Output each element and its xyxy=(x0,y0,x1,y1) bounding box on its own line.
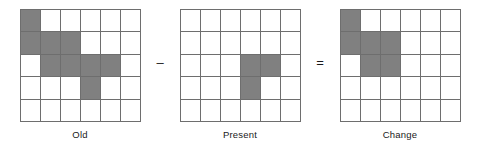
grid-cell-filled xyxy=(381,32,401,54)
grid-cell-empty xyxy=(101,77,121,99)
grid-cell-empty xyxy=(241,10,261,32)
grid-arithmetic-figure: Old – Present = Change xyxy=(0,0,480,146)
grid-cell-filled xyxy=(361,32,381,54)
grid-cell-empty xyxy=(281,77,301,99)
grid-old xyxy=(20,9,141,122)
grid-cell-empty xyxy=(421,55,441,77)
grid-cell-filled xyxy=(361,55,381,77)
panel-change: Change xyxy=(340,0,461,141)
grid-cell-empty xyxy=(241,32,261,54)
grid-cell-empty xyxy=(341,77,361,99)
grid-cell-empty xyxy=(221,10,241,32)
grid-cell-empty xyxy=(61,77,81,99)
grid-cell-filled xyxy=(61,55,81,77)
grid-cell-empty xyxy=(81,32,101,54)
grid-cell-empty xyxy=(281,55,301,77)
grid-cell-empty xyxy=(241,100,261,122)
grid-cell-filled xyxy=(241,55,261,77)
grid-cell-filled xyxy=(101,55,121,77)
grid-cell-empty xyxy=(381,77,401,99)
grid-cell-empty xyxy=(21,77,41,99)
grid-cell-empty xyxy=(101,32,121,54)
grid-cell-empty xyxy=(361,100,381,122)
grid-cell-empty xyxy=(81,10,101,32)
grid-cell-empty xyxy=(401,32,421,54)
grid-cell-empty xyxy=(21,100,41,122)
grid-cell-filled xyxy=(341,10,361,32)
grid-cell-empty xyxy=(441,32,461,54)
grid-cell-empty xyxy=(341,55,361,77)
panel-old: Old xyxy=(20,0,141,141)
grid-cell-filled xyxy=(21,10,41,32)
grid-cell-empty xyxy=(441,10,461,32)
grid-cell-empty xyxy=(181,100,201,122)
grid-cell-empty xyxy=(221,77,241,99)
grid-cell-empty xyxy=(361,77,381,99)
grid-cell-empty xyxy=(421,10,441,32)
grid-cell-filled xyxy=(41,55,61,77)
grid-cell-empty xyxy=(181,55,201,77)
grid-cell-filled xyxy=(61,32,81,54)
grid-cell-empty xyxy=(421,100,441,122)
caption-change: Change xyxy=(383,129,417,141)
grid-cell-empty xyxy=(441,100,461,122)
grid-change xyxy=(340,9,461,122)
grid-cell-empty xyxy=(261,32,281,54)
grid-cell-empty xyxy=(121,10,141,32)
grid-cell-filled xyxy=(81,55,101,77)
grid-cell-empty xyxy=(201,10,221,32)
grid-cell-empty xyxy=(121,100,141,122)
grid-cell-empty xyxy=(201,32,221,54)
grid-cell-empty xyxy=(221,55,241,77)
grid-cell-empty xyxy=(401,100,421,122)
grid-cell-empty xyxy=(61,10,81,32)
grid-cell-empty xyxy=(381,10,401,32)
grid-cell-empty xyxy=(181,32,201,54)
grid-cell-empty xyxy=(101,100,121,122)
grid-cell-empty xyxy=(41,100,61,122)
grid-cell-empty xyxy=(201,55,221,77)
grid-cell-empty xyxy=(201,100,221,122)
grid-cell-empty xyxy=(261,10,281,32)
grid-cell-empty xyxy=(281,100,301,122)
grid-cell-empty xyxy=(401,10,421,32)
operator-minus: – xyxy=(141,55,180,70)
grid-cell-empty xyxy=(341,100,361,122)
grid-cell-empty xyxy=(261,77,281,99)
grid-cell-empty xyxy=(421,32,441,54)
grid-cell-filled xyxy=(81,77,101,99)
grid-cell-empty xyxy=(181,77,201,99)
grid-cell-empty xyxy=(181,10,201,32)
grid-cell-empty xyxy=(121,77,141,99)
operator-equals: = xyxy=(301,55,340,70)
grid-cell-filled xyxy=(21,32,41,54)
grid-cell-empty xyxy=(101,10,121,32)
grid-cell-empty xyxy=(21,55,41,77)
grid-cell-empty xyxy=(61,100,81,122)
grid-cell-empty xyxy=(121,55,141,77)
grid-cell-filled xyxy=(41,32,61,54)
grid-cell-empty xyxy=(361,10,381,32)
grid-cell-empty xyxy=(441,77,461,99)
grid-cell-empty xyxy=(401,55,421,77)
grid-cell-empty xyxy=(81,100,101,122)
grid-wrap-change xyxy=(340,9,461,122)
grid-present xyxy=(180,9,301,122)
grid-cell-empty xyxy=(41,10,61,32)
grid-cell-empty xyxy=(381,100,401,122)
caption-old: Old xyxy=(72,129,87,141)
grid-cell-filled xyxy=(381,55,401,77)
grid-cell-empty xyxy=(281,32,301,54)
grid-cell-empty xyxy=(201,77,221,99)
grid-cell-empty xyxy=(221,100,241,122)
grid-cell-empty xyxy=(41,77,61,99)
grid-cell-empty xyxy=(281,10,301,32)
grid-cell-empty xyxy=(401,77,421,99)
grid-cell-filled xyxy=(341,32,361,54)
grid-cell-empty xyxy=(441,55,461,77)
grid-wrap-present xyxy=(180,9,301,122)
grid-cell-empty xyxy=(421,77,441,99)
caption-present: Present xyxy=(223,129,257,141)
grid-cell-empty xyxy=(261,100,281,122)
grid-cell-empty xyxy=(121,32,141,54)
